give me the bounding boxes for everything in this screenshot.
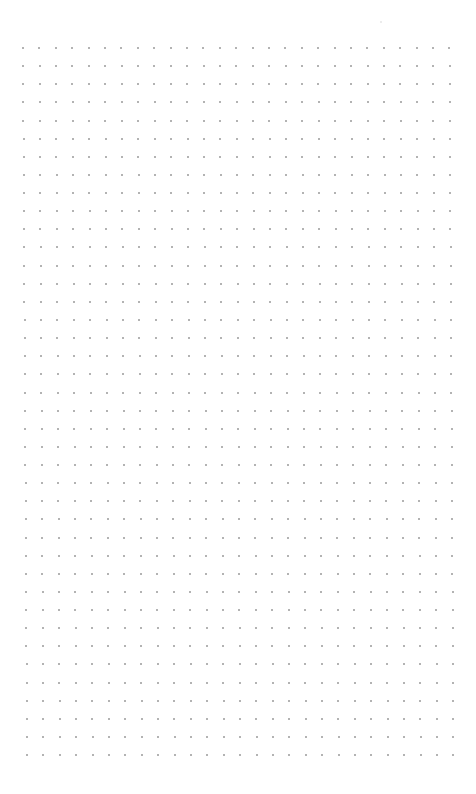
- grid-dot: [434, 464, 436, 466]
- grid-dot: [105, 228, 107, 230]
- grid-dot: [432, 47, 434, 49]
- grid-dot: [452, 609, 454, 611]
- grid-dot: [223, 718, 225, 720]
- grid-dot: [354, 718, 356, 720]
- grid-dot: [123, 464, 125, 466]
- grid-dot: [237, 319, 239, 321]
- grid-dot: [156, 573, 158, 575]
- grid-dot: [137, 47, 139, 49]
- grid-dot: [352, 355, 354, 357]
- grid-dot: [302, 319, 304, 321]
- grid-dot: [403, 700, 405, 702]
- grid-dot: [452, 754, 454, 756]
- grid-dot: [304, 682, 306, 684]
- grid-dot: [74, 591, 76, 593]
- grid-dot: [75, 754, 77, 756]
- grid-dot: [39, 65, 41, 67]
- grid-dot: [304, 645, 306, 647]
- grid-dot: [139, 482, 141, 484]
- grid-dot: [72, 246, 74, 248]
- grid-dot: [42, 591, 44, 593]
- grid-dot: [154, 138, 156, 140]
- grid-dot: [222, 573, 224, 575]
- grid-dot: [26, 682, 28, 684]
- grid-dot: [203, 192, 205, 194]
- grid-dot: [58, 518, 60, 520]
- grid-dot: [137, 65, 139, 67]
- grid-dot: [40, 283, 42, 285]
- grid-dot: [451, 537, 453, 539]
- grid-dot: [269, 265, 271, 267]
- grid-dot: [75, 663, 77, 665]
- grid-dot: [319, 319, 321, 321]
- grid-dot: [353, 645, 355, 647]
- grid-dot: [254, 500, 256, 502]
- grid-dot: [75, 718, 77, 720]
- grid-dot: [253, 246, 255, 248]
- grid-dot: [351, 210, 353, 212]
- grid-dot: [399, 65, 401, 67]
- grid-dot: [384, 265, 386, 267]
- grid-dot: [385, 482, 387, 484]
- grid-dot: [318, 210, 320, 212]
- grid-dot: [171, 265, 173, 267]
- grid-dot: [448, 47, 450, 49]
- grid-dot: [238, 500, 240, 502]
- grid-dot: [401, 428, 403, 430]
- grid-dot: [157, 645, 159, 647]
- grid-dot: [204, 301, 206, 303]
- grid-dot: [337, 682, 339, 684]
- grid-dot: [55, 120, 57, 122]
- grid-dot: [320, 537, 322, 539]
- grid-dot: [138, 228, 140, 230]
- grid-dot: [235, 65, 237, 67]
- grid-dot: [305, 700, 307, 702]
- grid-dot: [140, 518, 142, 520]
- grid-dot: [189, 609, 191, 611]
- grid-dot: [303, 482, 305, 484]
- grid-dot: [39, 192, 41, 194]
- grid-dot: [335, 228, 337, 230]
- grid-dot: [353, 482, 355, 484]
- grid-dot: [239, 736, 241, 738]
- grid-dot: [433, 192, 435, 194]
- grid-dot: [433, 210, 435, 212]
- grid-dot: [139, 355, 141, 357]
- grid-dot: [285, 138, 287, 140]
- grid-dot: [287, 555, 289, 557]
- grid-dot: [236, 228, 238, 230]
- grid-dot: [354, 700, 356, 702]
- grid-dot: [287, 446, 289, 448]
- grid-dot: [204, 355, 206, 357]
- grid-dot: [59, 736, 61, 738]
- grid-dot: [338, 736, 340, 738]
- grid-dot: [433, 156, 435, 158]
- grid-dot: [403, 718, 405, 720]
- grid-dot: [419, 718, 421, 720]
- grid-dot: [157, 718, 159, 720]
- grid-dot: [205, 573, 207, 575]
- grid-dot: [303, 500, 305, 502]
- grid-dot: [254, 464, 256, 466]
- grid-dot: [56, 228, 58, 230]
- grid-dot: [186, 120, 188, 122]
- grid-dot: [321, 754, 323, 756]
- grid-dot: [418, 482, 420, 484]
- grid-dot: [22, 47, 24, 49]
- grid-dot: [271, 500, 273, 502]
- grid-dot: [269, 228, 271, 230]
- grid-dot: [107, 537, 109, 539]
- grid-dot: [104, 101, 106, 103]
- grid-dot: [321, 718, 323, 720]
- grid-dot: [271, 645, 273, 647]
- grid-dot: [106, 446, 108, 448]
- grid-dot: [383, 65, 385, 67]
- grid-dot: [384, 228, 386, 230]
- grid-dot: [75, 627, 77, 629]
- grid-dot: [205, 555, 207, 557]
- grid-dot: [171, 228, 173, 230]
- grid-dot: [304, 537, 306, 539]
- grid-dot: [104, 83, 106, 85]
- grid-dot: [173, 627, 175, 629]
- grid-dot: [91, 700, 93, 702]
